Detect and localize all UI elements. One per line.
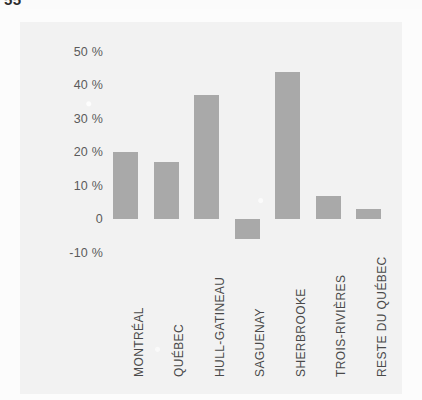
x-tick-label-reste-du-quebec: RESTE DU QUÉBEC <box>375 256 389 377</box>
bar-reste-du-quebec <box>356 209 381 219</box>
y-tick-label: 30 % <box>0 112 103 126</box>
plot-area: 50 % 40 % 30 % 20 % 10 % 0 -10 % MONTRÉA… <box>0 9 422 400</box>
x-tick-label-quebec: QUÉBEC <box>172 324 186 377</box>
x-tick-label-trois-rivieres: TROIS-RIVIÈRES <box>334 275 348 377</box>
x-tick-label-montreal: MONTRÉAL <box>132 307 146 377</box>
x-tick-label-saguenay: SAGUENAY <box>253 308 267 377</box>
bar-montreal <box>113 152 138 219</box>
y-tick-label: 40 % <box>0 78 103 92</box>
x-tick-label-sherbrooke: SHERBROOKE <box>294 288 308 377</box>
bar-quebec <box>154 162 179 219</box>
y-tick-label: 10 % <box>0 179 103 193</box>
y-tick-label: 20 % <box>0 145 103 159</box>
bar-saguenay <box>235 219 260 239</box>
x-tick-label-hull-gatineau: HULL-GATINEAU <box>213 277 227 377</box>
bar-hull-gatineau <box>194 95 219 219</box>
y-tick-label: 0 <box>0 212 103 226</box>
y-tick-label: 50 % <box>0 45 103 59</box>
page-number: 55 <box>4 0 22 8</box>
bar-chart-figure: 50 % 40 % 30 % 20 % 10 % 0 -10 % MONTRÉA… <box>0 9 422 400</box>
y-tick-label: -10 % <box>0 246 103 260</box>
bar-sherbrooke <box>275 72 300 219</box>
bar-trois-rivieres <box>316 196 341 219</box>
page-header-remnant: 55 <box>0 0 422 9</box>
